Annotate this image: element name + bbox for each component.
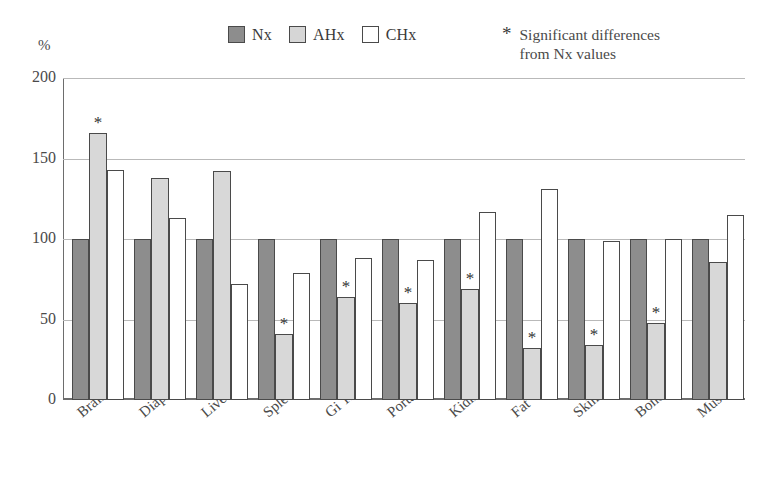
significance-asterisk-icon: * xyxy=(342,281,351,293)
bar-nx-muscle xyxy=(692,239,710,400)
bar-nx-bone xyxy=(630,239,648,400)
bar-ahx-muscle xyxy=(709,262,727,400)
significance-asterisk-icon: * xyxy=(528,332,537,344)
significance-asterisk-icon: * xyxy=(280,318,289,330)
chart-legend: Nx AHx CHx xyxy=(228,26,417,43)
bar-nx-kidney xyxy=(444,239,462,400)
legend-label-nx: Nx xyxy=(252,27,272,43)
bar-nx-brain xyxy=(72,239,90,400)
significance-asterisk-icon: * xyxy=(652,307,661,319)
bar-nx-spleen xyxy=(258,239,276,400)
bar-chx-brain xyxy=(107,170,125,400)
bar-ahx-fat: * xyxy=(523,348,541,400)
significance-asterisk-icon: * xyxy=(404,287,413,299)
legend-swatch-nx xyxy=(228,26,245,43)
bar-chx-diaph xyxy=(169,218,187,400)
bar-chx-bone xyxy=(665,239,683,400)
bar-ahx-liver xyxy=(213,171,231,400)
y-tick-label-200: 200 xyxy=(8,68,56,86)
legend-item-nx: Nx xyxy=(228,26,272,43)
asterisk-icon: * xyxy=(502,25,512,42)
bar-ahx-spleen: * xyxy=(275,334,293,400)
significance-note: * Significant differences from Nx values xyxy=(502,25,660,63)
note-text: Significant differences from Nx values xyxy=(520,25,660,63)
bar-chart: Nx AHx CHx * Significant differences fro… xyxy=(0,0,765,481)
bar-chx-liver xyxy=(231,284,249,400)
bar-nx-gi-tract xyxy=(320,239,338,400)
bar-nx-fat xyxy=(506,239,524,400)
bar-ahx-kidney: * xyxy=(461,289,479,400)
bar-chx-gi-tract xyxy=(355,258,373,400)
bar-chx-skin xyxy=(603,241,621,400)
significance-asterisk-icon: * xyxy=(466,273,475,285)
bar-chx-kidney xyxy=(479,212,497,400)
bar-ahx-diaph xyxy=(151,178,169,400)
note-line-1: Significant differences xyxy=(520,26,660,43)
legend-label-chx: CHx xyxy=(386,27,417,43)
gridline-150 xyxy=(63,159,745,160)
bar-nx-skin xyxy=(568,239,586,400)
bar-ahx-portal: * xyxy=(399,303,417,400)
gridline-200 xyxy=(63,78,745,79)
significance-asterisk-icon: * xyxy=(94,117,103,129)
bar-group-brain: * xyxy=(72,78,125,400)
legend-item-chx: CHx xyxy=(362,26,417,43)
legend-swatch-chx xyxy=(362,26,379,43)
bar-group-diaph xyxy=(134,78,187,400)
legend-label-ahx: AHx xyxy=(313,27,345,43)
x-axis-ticks: BrainDiaphLiverSpleenGi TractPortalKidne… xyxy=(63,402,745,477)
significance-asterisk-icon: * xyxy=(590,329,599,341)
y-axis-unit: % xyxy=(38,37,51,54)
bar-ahx-brain: * xyxy=(89,133,107,400)
bar-chx-spleen xyxy=(293,273,311,400)
bar-nx-diaph xyxy=(134,239,152,400)
note-line-2: from Nx values xyxy=(520,45,616,62)
bar-nx-liver xyxy=(196,239,214,400)
y-tick-label-50: 50 xyxy=(8,310,56,328)
y-tick-label-150: 150 xyxy=(8,149,56,167)
bar-nx-portal xyxy=(382,239,400,400)
y-tick-label-100: 100 xyxy=(8,229,56,247)
plot-area: ******** xyxy=(63,78,745,400)
y-tick-label-0: 0 xyxy=(8,390,56,408)
bar-ahx-gi-tract: * xyxy=(337,297,355,400)
bar-chx-muscle xyxy=(727,215,745,400)
bar-chx-portal xyxy=(417,260,435,400)
bar-ahx-bone: * xyxy=(647,323,665,400)
bar-chx-fat xyxy=(541,189,559,400)
legend-item-ahx: AHx xyxy=(289,26,345,43)
legend-swatch-ahx xyxy=(289,26,306,43)
bar-ahx-skin: * xyxy=(585,345,603,400)
